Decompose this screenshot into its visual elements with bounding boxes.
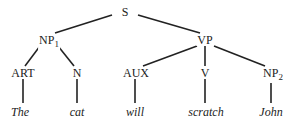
node-s: S [121,6,130,18]
node-n: N [72,67,83,79]
node-vp: VP [196,34,213,46]
tree-edges [0,0,291,125]
word-john: John [258,106,283,118]
word-the: The [10,106,30,118]
node-v: V [200,67,211,79]
word-cat: cat [69,106,86,118]
word-scratch: scratch [187,106,224,118]
node-aux: AUX [122,67,150,79]
word-will: will [125,106,145,118]
node-art: ART [10,67,35,79]
node-np1: NP1 [38,34,60,50]
node-np2: NP2 [262,67,284,83]
